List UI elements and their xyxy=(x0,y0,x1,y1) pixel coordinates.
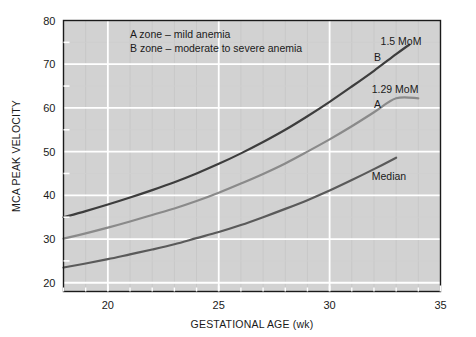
label-b: B xyxy=(374,51,381,63)
ytick-label: 60 xyxy=(43,102,55,114)
y-axis-title: MCA PEAK VELOCITY xyxy=(10,100,22,212)
ytick-label: 30 xyxy=(43,233,55,245)
legend-line-a: A zone – mild anemia xyxy=(130,28,231,40)
ytick-label: 20 xyxy=(43,277,55,289)
chart-figure: 2025303520304050607080GESTATIONAL AGE (w… xyxy=(0,0,476,337)
label-median: Median xyxy=(372,170,407,182)
xtick-label: 25 xyxy=(213,299,225,311)
label-1-5-mom: 1.5 MoM xyxy=(381,35,422,47)
ytick-label: 50 xyxy=(43,146,55,158)
ytick-label: 80 xyxy=(43,15,55,27)
plot-area-background xyxy=(64,21,441,292)
legend-line-b: B zone – moderate to severe anemia xyxy=(130,42,302,54)
label-1-29-mom: 1.29 MoM xyxy=(372,83,419,95)
xtick-label: 20 xyxy=(102,299,114,311)
x-axis-title: GESTATIONAL AGE (wk) xyxy=(191,318,314,330)
xtick-label: 35 xyxy=(434,299,446,311)
ytick-label: 70 xyxy=(43,58,55,70)
ytick-label: 40 xyxy=(43,189,55,201)
label-a: A xyxy=(374,98,381,110)
xtick-label: 30 xyxy=(323,299,335,311)
mca-peak-velocity-chart: 2025303520304050607080GESTATIONAL AGE (w… xyxy=(0,0,476,337)
